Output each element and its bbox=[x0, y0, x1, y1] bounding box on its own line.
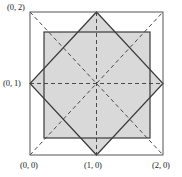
figure-canvas bbox=[0, 0, 182, 177]
coordinate-label-bottom-left: (0, 0) bbox=[20, 161, 38, 170]
coordinate-label-bottom-mid: (1, 0) bbox=[84, 161, 102, 170]
coordinate-label-left-mid: (0, 1) bbox=[3, 79, 21, 88]
coordinate-label-top-left: (0, 2) bbox=[7, 3, 25, 12]
coordinate-label-bottom-right: (2, 0) bbox=[152, 161, 170, 170]
geometry-figure: (0, 2) (0, 1) (0, 0) (1, 0) (2, 0) bbox=[0, 0, 182, 177]
